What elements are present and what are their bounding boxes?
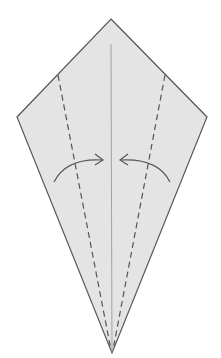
origami-diagram: Kite base: valley fold both edges to cen… [0,0,221,358]
diagram-canvas [0,0,221,358]
